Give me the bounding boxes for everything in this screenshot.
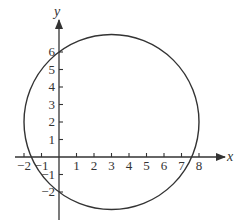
x-tick-label: 3	[108, 158, 115, 173]
y-tick-label: 6	[49, 44, 56, 59]
y-tick-label: −1	[41, 167, 55, 182]
y-tick-label: 4	[49, 79, 56, 94]
y-tick-label: 5	[49, 62, 56, 77]
x-tick-label: 2	[91, 158, 98, 173]
x-tick-label: 4	[126, 158, 133, 173]
x-tick-label: 8	[196, 158, 203, 173]
y-tick-label: 2	[49, 114, 56, 129]
y-axis-label: y	[52, 4, 61, 19]
circle-graph: −2−112345678−2−1123456 x y	[0, 0, 247, 221]
x-tick-label: 5	[143, 158, 150, 173]
y-tick-label: 3	[49, 97, 56, 112]
x-axis-label: x	[226, 149, 234, 164]
y-tick-label: 1	[49, 132, 56, 147]
x-tick-label: −2	[17, 158, 31, 173]
x-tick-label: 1	[73, 158, 80, 173]
x-tick-label: 6	[161, 158, 168, 173]
